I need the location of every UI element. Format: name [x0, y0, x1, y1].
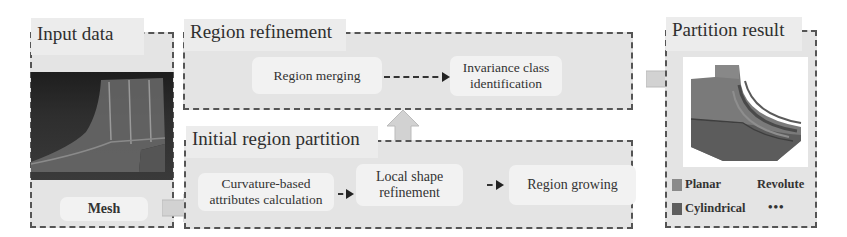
local-shape-refinement-label: Local shape refinement: [370, 169, 449, 201]
mesh-image: [31, 72, 173, 180]
partition-result-image: [683, 57, 808, 167]
partitioned-model-icon: [683, 57, 808, 167]
legend-more-label: •••: [768, 199, 785, 214]
invariance-class-label: Invariance class identification: [458, 60, 554, 92]
legend-revolute-label: Revolute: [757, 177, 804, 191]
block-arrow-up-icon: [387, 110, 419, 142]
partition-result-title: Partition result: [666, 17, 802, 51]
cylindrical-swatch-icon: [672, 203, 682, 215]
region-growing-node[interactable]: Region growing: [509, 165, 636, 205]
legend-revolute: Revolute: [757, 177, 804, 192]
legend-cylindrical: Cylindrical: [672, 201, 745, 216]
curvature-attributes-node[interactable]: Curvature-based attributes calculation: [198, 173, 334, 211]
legend-planar-label: Planar: [685, 177, 721, 191]
mesh-render-icon: [31, 72, 173, 180]
region-growing-label: Region growing: [527, 177, 618, 193]
local-shape-refinement-node[interactable]: Local shape refinement: [356, 164, 463, 206]
region-merging-label: Region merging: [273, 68, 360, 84]
arrow-local-to-growing: [487, 184, 502, 188]
initial-region-partition-title: Initial region partition: [186, 126, 378, 158]
mesh-label: Mesh: [88, 201, 121, 217]
mesh-node[interactable]: Mesh: [60, 197, 148, 221]
region-merging-node[interactable]: Region merging: [252, 57, 382, 94]
invariance-class-node[interactable]: Invariance class identification: [450, 56, 562, 96]
planar-swatch-icon: [672, 179, 682, 191]
legend-cylindrical-label: Cylindrical: [685, 201, 745, 215]
legend-more: •••: [768, 199, 785, 215]
arrow-merging-to-invariance: [384, 76, 448, 80]
region-refinement-title: Region refinement: [184, 19, 346, 51]
legend-planar: Planar: [672, 177, 721, 192]
curvature-attributes-label: Curvature-based attributes calculation: [198, 176, 334, 208]
arrow-curvature-to-local: [338, 193, 352, 197]
input-data-title: Input data: [31, 18, 144, 55]
